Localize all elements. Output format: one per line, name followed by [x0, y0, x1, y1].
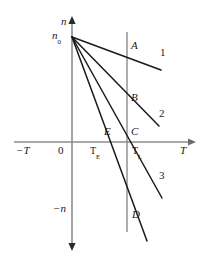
t-e-tick-label: TE [90, 146, 100, 159]
n-axis-arrowhead-down [68, 243, 75, 251]
point-label-a: A [131, 40, 138, 51]
t-l-tick-label: TL [132, 146, 142, 159]
point-label-d: D [132, 209, 140, 220]
t-l-subscript: L [138, 153, 142, 161]
n0-subscript: 0 [58, 38, 62, 46]
figure-container: n n0 −n T −T 0 TE TL A 1 B 2 E C 3 D [0, 0, 206, 261]
t-axis-negative-label: −T [16, 145, 30, 156]
n-axis-negative-label: −n [53, 203, 66, 214]
point-label-b: B [131, 92, 138, 103]
line-number-2: 2 [159, 108, 165, 119]
point-label-c: C [131, 126, 138, 137]
n0-base: n [52, 29, 58, 41]
t-e-subscript: E [96, 153, 100, 161]
origin-label: 0 [58, 145, 64, 156]
n-axis-arrowhead-up [68, 16, 75, 24]
n0-intercept-label: n0 [52, 30, 61, 44]
n-axis-positive-label: n [61, 16, 67, 27]
t-axis-arrowhead [188, 138, 196, 145]
line-2-path [72, 37, 159, 126]
line-number-3: 3 [159, 170, 165, 181]
fan-lines-group [72, 37, 162, 241]
line-3-path [72, 37, 162, 198]
line-number-1: 1 [160, 47, 166, 58]
point-label-e: E [104, 126, 111, 137]
t-axis-positive-label: T [180, 145, 186, 156]
line-1-path [72, 37, 161, 70]
n-vs-t-plot [0, 0, 206, 261]
